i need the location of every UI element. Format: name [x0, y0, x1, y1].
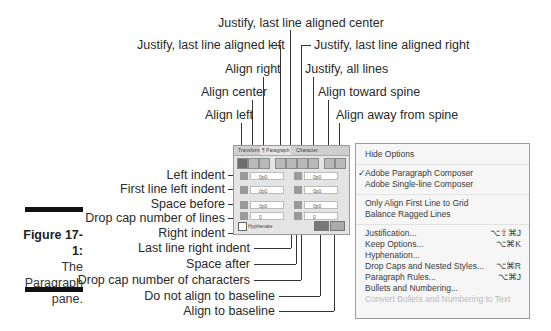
menu-separator [356, 164, 529, 165]
leader-line [254, 280, 301, 281]
space-after-icon [294, 201, 302, 209]
tab-transform[interactable]: Transform [236, 146, 263, 155]
last-line-right-indent-field[interactable]: 0p0 [304, 186, 338, 194]
callout-align-toward-spine: Align toward spine [318, 85, 420, 99]
menu-item-label: Drop Caps and Nested Styles... [365, 261, 484, 271]
menu-item-paragraph-rules[interactable]: Paragraph Rules...⌥⌘J [365, 272, 521, 283]
hyphenate-label: Hyphenate [248, 222, 272, 230]
panel-tab-bar: Transform ¶ Paragraph Character [234, 146, 349, 156]
callout-space-after: Space after [186, 257, 250, 271]
justify-last-left-button[interactable] [275, 158, 286, 169]
caption-line: pane. [20, 291, 83, 307]
leader-line [279, 311, 334, 312]
leader-line [279, 296, 320, 297]
menu-shortcut: ⌥⌘K [496, 239, 521, 250]
drop-cap-lines-field[interactable]: 0 [250, 212, 284, 220]
callout-align-center: Align center [201, 85, 267, 99]
menu-item-label: Convert Bullets and Numbering to Text [365, 294, 510, 304]
leader-line [313, 77, 314, 153]
menu-item-hyphenation[interactable]: Hyphenation... [365, 250, 521, 261]
callout-drop-cap-chars: Drop cap number of characters [78, 273, 250, 287]
left-indent-field[interactable]: 0p0 [250, 172, 284, 180]
figure-number: Figure 17-1: [20, 227, 83, 259]
callout-align-left: Align left [205, 108, 253, 122]
menu-item-label: Adobe Single-line Composer [365, 179, 473, 189]
figure-caption: Figure 17-1: The Paragraph pane. [20, 227, 83, 307]
callout-justify-last-center: Justify, last line aligned center [218, 16, 384, 30]
menu-item-hide-options[interactable]: Hide Options [365, 149, 521, 160]
menu-item-justification[interactable]: Justification...⌥⇧⌘J [365, 228, 521, 239]
align-left-button[interactable] [237, 158, 248, 169]
menu-item-drop-caps[interactable]: Drop Caps and Nested Styles...⌥⌘R [365, 261, 521, 272]
space-before-field[interactable]: 0p0 [250, 201, 284, 209]
space-after-field[interactable]: 0p0 [304, 201, 338, 209]
leader-line [301, 45, 311, 46]
justify-last-center-button[interactable] [286, 158, 297, 169]
right-indent-icon [294, 172, 302, 180]
menu-item-balance-ragged[interactable]: Balance Ragged Lines [365, 209, 521, 220]
callout-align-baseline: Align to baseline [183, 304, 275, 318]
menu-item-label: Adobe Paragraph Composer [365, 168, 473, 178]
menu-item-keep-options[interactable]: Keep Options...⌥⌘K [365, 239, 521, 250]
no-baseline-button[interactable] [314, 221, 329, 231]
leader-line [269, 45, 280, 46]
align-away-spine-button[interactable] [335, 158, 346, 169]
menu-item-label: Only Align First Line to Grid [365, 198, 468, 208]
first-line-indent-field[interactable]: 0p0 [250, 186, 284, 194]
leader-line [301, 45, 302, 153]
callout-first-line-indent: First line left indent [120, 182, 225, 196]
leader-line [320, 228, 321, 296]
leader-line [263, 77, 264, 153]
menu-item-label: Justification... [365, 228, 417, 238]
menu-shortcut: ⌥⇧⌘J [490, 228, 521, 239]
callout-justify-all: Justify, all lines [305, 62, 388, 76]
justify-last-right-button[interactable] [297, 158, 308, 169]
hyphenate-checkbox[interactable] [238, 222, 247, 231]
justify-all-button[interactable] [308, 158, 319, 169]
menu-item-label: Hyphenation... [365, 250, 420, 260]
caption-line: The [20, 259, 83, 275]
menu-shortcut: ⌥⌘J [498, 272, 521, 283]
menu-item-convert-bullets: Convert Bullets and Numbering to Text [365, 294, 521, 305]
first-line-indent-icon [240, 186, 248, 194]
menu-item-label: Keep Options... [365, 239, 424, 249]
align-toward-spine-button[interactable] [324, 158, 335, 169]
leader-line [254, 248, 291, 249]
tab-paragraph[interactable]: ¶ Paragraph [260, 146, 291, 155]
check-icon: ✓ [358, 168, 366, 179]
menu-item-paragraph-composer[interactable]: ✓Adobe Paragraph Composer [365, 168, 521, 179]
callout-drop-cap-lines: Drop cap number of lines [85, 211, 225, 225]
menu-item-bullets-numbering[interactable]: Bullets and Numbering... [365, 283, 521, 294]
menu-separator [356, 224, 529, 225]
panel-options-menu: Hide Options ✓Adobe Paragraph Composer A… [355, 143, 530, 319]
menu-item-label: Balance Ragged Lines [365, 209, 451, 219]
right-indent-field[interactable]: 0p0 [304, 172, 338, 180]
callout-align-right: Align right [225, 62, 281, 76]
align-center-button[interactable] [248, 158, 259, 169]
leader-line [280, 45, 281, 153]
callout-align-away-spine: Align away from spine [336, 108, 458, 122]
leader-line [254, 264, 296, 265]
caption-rule-top [25, 207, 83, 212]
drop-cap-lines-icon [240, 212, 248, 220]
menu-item-label: Bullets and Numbering... [365, 283, 458, 293]
drop-cap-chars-icon [294, 212, 302, 220]
callout-last-line-right-indent: Last line right indent [138, 241, 250, 255]
leader-line [334, 228, 335, 311]
left-indent-icon [240, 172, 248, 180]
menu-item-align-first-line-grid[interactable]: Only Align First Line to Grid [365, 198, 521, 209]
menu-shortcut: ⌥⌘R [496, 261, 521, 272]
space-before-icon [240, 201, 248, 209]
align-baseline-button[interactable] [330, 221, 345, 231]
callout-no-baseline: Do not align to baseline [144, 289, 275, 303]
align-right-button[interactable] [259, 158, 270, 169]
menu-separator [356, 194, 529, 195]
callout-justify-last-left: Justify, last line aligned left [137, 38, 285, 52]
menu-item-label: Hide Options [365, 149, 414, 159]
callout-space-before: Space before [151, 197, 225, 211]
callout-right-indent: Right indent [158, 226, 225, 240]
menu-item-single-line-composer[interactable]: Adobe Single-line Composer [365, 179, 521, 190]
tab-character[interactable]: Character [294, 146, 320, 155]
menu-item-label: Paragraph Rules... [365, 272, 436, 282]
drop-cap-chars-field[interactable]: 0 [304, 212, 338, 220]
